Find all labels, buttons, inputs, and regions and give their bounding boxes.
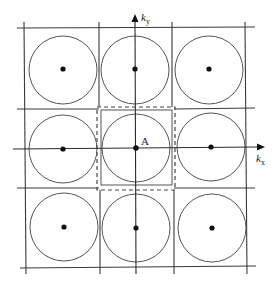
ky-axis-arrowhead-icon — [132, 14, 139, 22]
lattice-point-r2-c1 — [133, 225, 138, 230]
lattice-point-r2-c0 — [61, 224, 66, 229]
lattice-point-r0-c2 — [206, 66, 211, 71]
kx-axis-label-subscript: x — [261, 158, 265, 167]
grid-line-top — [17, 27, 255, 28]
k-space-lattice-diagram: A ky kx — [0, 0, 275, 287]
lattice-point-r1-c2 — [208, 144, 213, 149]
axes — [13, 14, 265, 274]
grid-line-upper-middle-right — [174, 108, 255, 109]
kx-axis-arrowhead-icon — [257, 144, 265, 151]
grid-line-left — [24, 22, 26, 274]
point-a-label: A — [141, 135, 149, 147]
grid-line-bottom — [20, 266, 256, 268]
lattice-point-r0-c0 — [60, 66, 65, 71]
lattice-point-r2-c2 — [209, 225, 214, 230]
lattice-point-r0-c1 — [132, 66, 137, 71]
ky-axis-label-subscript: y — [146, 17, 150, 26]
kx-axis-label: kx — [256, 152, 265, 167]
lattice-point-a — [133, 145, 139, 151]
ky-axis-label: ky — [141, 11, 150, 26]
lattice-point-r1-c0 — [60, 146, 65, 151]
